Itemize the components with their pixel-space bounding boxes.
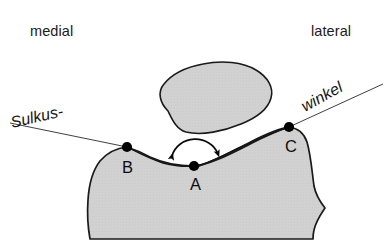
sulcus-angle-arc [172, 139, 218, 156]
orientation-label-lateral: lateral [311, 23, 351, 39]
point-label-a: A [190, 175, 201, 193]
patella-shape [160, 62, 272, 133]
orientation-label-medial: medial [30, 23, 73, 39]
callout-label-winkel: winkel [298, 78, 346, 115]
sulcus-angle-diagram: B A C medial lateral Sulkus- winkel [0, 0, 388, 248]
point-marker-a [189, 161, 199, 171]
diagram-canvas: B A C medial lateral Sulkus- winkel [0, 0, 388, 248]
point-marker-b [122, 142, 132, 152]
callout-label-sulkus: Sulkus- [9, 102, 65, 131]
point-label-c: C [285, 137, 297, 155]
point-label-b: B [122, 158, 133, 176]
point-marker-c [284, 122, 294, 132]
